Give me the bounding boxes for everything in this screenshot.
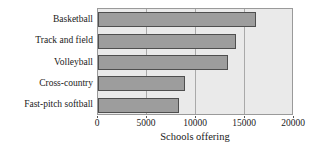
x-tick-label: 5000	[137, 118, 156, 129]
bar[interactable]	[98, 98, 179, 113]
x-tick-label: 10000	[183, 118, 207, 129]
bar[interactable]	[98, 55, 228, 70]
category-label: Basketball	[0, 14, 93, 24]
bar-row	[98, 95, 292, 116]
bar-chart: BasketballTrack and fieldVolleyballCross…	[0, 0, 312, 153]
x-axis-title: Schools offering	[97, 131, 293, 142]
bar-row	[98, 52, 292, 73]
bar-row	[98, 73, 292, 94]
x-tick-label: 15000	[232, 118, 256, 129]
bars-group	[98, 9, 292, 114]
category-label: Fast-pitch softball	[0, 99, 93, 109]
x-tick-label: 0	[95, 118, 100, 129]
category-label: Track and field	[0, 35, 93, 45]
category-axis-labels: BasketballTrack and fieldVolleyballCross…	[0, 8, 93, 115]
bar-row	[98, 30, 292, 51]
bar[interactable]	[98, 76, 185, 91]
x-axis-ticks: 05000100001500020000	[0, 116, 312, 129]
plot-area	[97, 8, 293, 115]
category-label: Volleyball	[0, 57, 93, 67]
bar[interactable]	[98, 12, 256, 27]
x-tick-label: 20000	[281, 118, 305, 129]
bar[interactable]	[98, 34, 236, 49]
bar-row	[98, 9, 292, 30]
category-label: Cross-country	[0, 78, 93, 88]
